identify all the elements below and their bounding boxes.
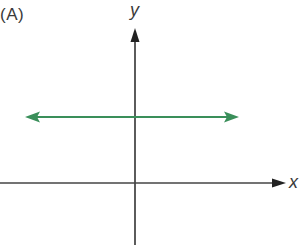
y-axis-arrow-icon — [131, 28, 140, 42]
horizontal-line — [25, 112, 239, 123]
x-axis — [0, 179, 286, 188]
y-axis — [131, 28, 140, 245]
coordinate-plane — [0, 0, 305, 245]
x-axis-arrow-icon — [272, 179, 286, 188]
